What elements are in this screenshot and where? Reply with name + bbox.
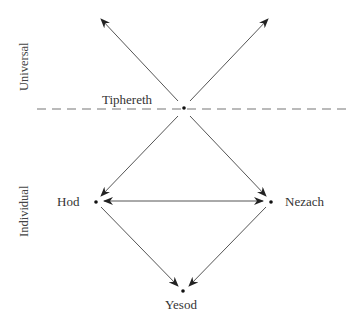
node-dot-yesod xyxy=(181,289,185,293)
node-dot-hod xyxy=(94,200,98,204)
node-label-tiphereth: Tiphereth xyxy=(102,92,153,107)
arrow-hod-yesod xyxy=(101,207,178,286)
node-dot-nezach xyxy=(269,200,273,204)
node-label-hod: Hod xyxy=(57,194,80,209)
arrow-tiphereth-hod xyxy=(101,116,178,196)
node-label-yesod: Yesod xyxy=(165,297,197,312)
arrow-tiphereth-upper-left xyxy=(101,19,178,101)
side-label-universal: Universal xyxy=(17,42,31,91)
node-label-nezach: Nezach xyxy=(285,194,324,209)
side-label-individual: Individual xyxy=(17,185,31,237)
arrow-nezach-yesod xyxy=(189,207,266,286)
node-dot-tiphereth xyxy=(182,106,186,110)
tree-diagram: Tiphereth Hod Nezach Yesod Universal Ind… xyxy=(0,0,357,324)
arrow-tiphereth-nezach xyxy=(190,116,266,196)
arrow-tiphereth-upper-right xyxy=(190,19,268,101)
